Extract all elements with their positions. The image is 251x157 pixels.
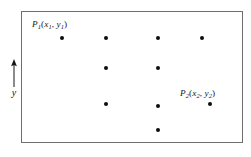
point-label-p2: P2(x2, y2) [180,89,215,98]
plot-frame [21,11,243,143]
figure-canvas: y P1(x1, y1)P2(x2, y2) [0,0,251,157]
y-axis-indicator: y [6,58,22,104]
up-arrow-icon [6,58,22,88]
point-label-p1: P1(x1, y1) [32,20,67,29]
y-axis-label: y [7,88,21,98]
